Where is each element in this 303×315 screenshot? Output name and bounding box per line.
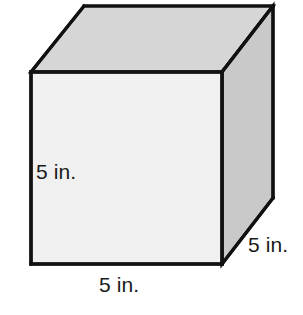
cube-illustration	[0, 0, 303, 315]
dimension-label-height: 5 in.	[36, 161, 76, 182]
figure-stage: 5 in. 5 in. 5 in.	[0, 0, 303, 315]
dimension-label-width: 5 in.	[99, 274, 139, 295]
dimension-label-depth: 5 in.	[248, 234, 288, 255]
